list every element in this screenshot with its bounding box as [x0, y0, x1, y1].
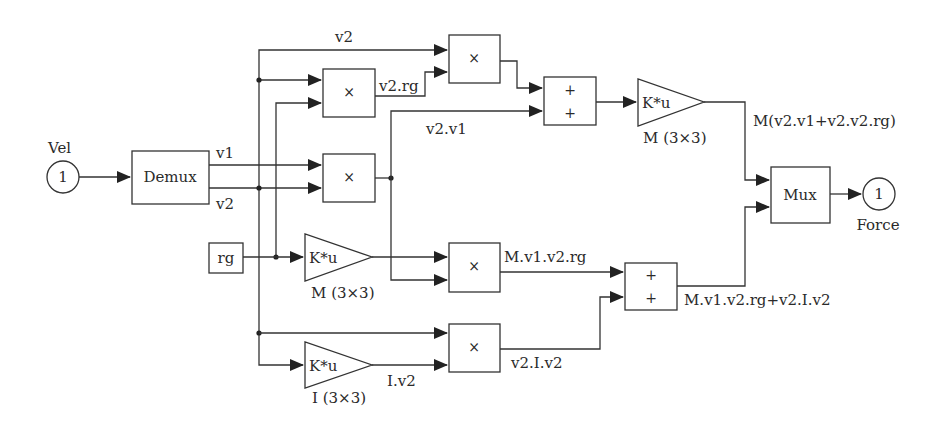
- gain-param: M (3×3): [643, 129, 707, 147]
- gain-param: M (3×3): [311, 284, 375, 302]
- signal-label-v2v1: v2.v1: [425, 120, 467, 138]
- signal-label-v2rg: v2.rg: [378, 77, 419, 95]
- wire-rg-to-prod1: [276, 103, 321, 257]
- junction: [256, 185, 261, 190]
- outport-number: 1: [874, 185, 884, 203]
- inport-number: 1: [58, 168, 68, 186]
- sum-top[interactable]: + +: [544, 77, 596, 125]
- wire-v2-to-gainI: [259, 357, 303, 365]
- outport-label: Force: [856, 216, 899, 234]
- product-symbol: ×: [343, 84, 355, 100]
- mux-block[interactable]: Mux: [771, 167, 830, 223]
- sum-sign: +: [645, 267, 657, 283]
- junction: [256, 77, 261, 82]
- gain-top[interactable]: K*u: [638, 79, 704, 126]
- signal-label-v1: v1: [215, 144, 234, 162]
- wire-v2Iv2: [500, 297, 623, 349]
- gain-M-rg[interactable]: K*u: [305, 234, 372, 281]
- signal-label-Mtotal: M(v2.v1+v2.v2.rg): [753, 112, 896, 130]
- wire-sum-bottom-to-mux: [677, 207, 769, 286]
- signal-label-Iv2: I.v2: [387, 372, 416, 390]
- signal-label-v2-top: v2: [334, 28, 353, 46]
- sum-sign: +: [645, 290, 657, 306]
- wire-v2v1-down: [391, 178, 447, 280]
- signal-label-Mv1v2rg: M.v1.v2.rg: [504, 248, 587, 266]
- product-Mrg[interactable]: ×: [449, 243, 500, 292]
- outport-force[interactable]: 1: [863, 178, 895, 210]
- product-symbol: ×: [468, 258, 480, 274]
- demux-label: Demux: [143, 168, 197, 186]
- signal-label-v2: v2: [215, 195, 234, 213]
- product-v2-v2rg[interactable]: ×: [449, 35, 500, 83]
- block-diagram: 1 Vel Demux v1 v2 v2 × v2.rg × × v2.v1: [0, 0, 952, 429]
- product-symbol: ×: [468, 50, 480, 66]
- product-v2-rg[interactable]: ×: [323, 69, 375, 117]
- sum-sign: +: [564, 105, 576, 121]
- product-v2-v1[interactable]: ×: [323, 154, 375, 202]
- constant-rg[interactable]: rg: [209, 243, 243, 273]
- inport-label: Vel: [47, 139, 71, 157]
- sum-bottom[interactable]: + +: [625, 263, 677, 310]
- sum-sign: +: [564, 82, 576, 98]
- product-v2Iv2[interactable]: ×: [449, 324, 500, 372]
- wire-v2v2rg: [500, 61, 542, 88]
- gain-I[interactable]: K*u: [305, 342, 372, 388]
- gain-expr: K*u: [309, 249, 338, 267]
- inport-vel[interactable]: 1: [47, 161, 79, 193]
- product-symbol: ×: [343, 169, 355, 185]
- constant-label: rg: [218, 249, 235, 267]
- mux-label: Mux: [783, 186, 817, 204]
- product-symbol: ×: [468, 339, 480, 355]
- gain-expr: K*u: [642, 94, 671, 112]
- demux-block[interactable]: Demux: [132, 151, 209, 204]
- gain-param: I (3×3): [312, 389, 366, 407]
- signal-label-v2Iv2: v2.I.v2: [510, 354, 563, 372]
- signal-label-sum-bottom: M.v1.v2.rg+v2.I.v2: [684, 291, 831, 309]
- gain-expr: K*u: [309, 357, 338, 375]
